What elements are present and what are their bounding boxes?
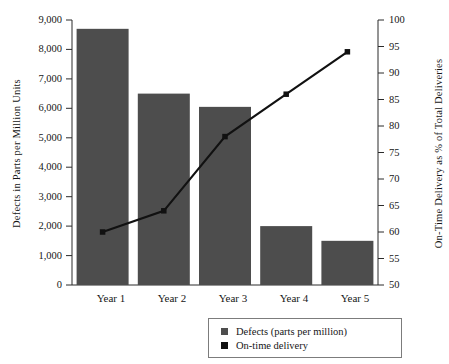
bar-year-3 xyxy=(199,107,251,285)
left-axis-ticks xyxy=(66,20,72,285)
left-tick-label-8000: 8,000 xyxy=(18,44,62,54)
right-tick-label-85: 85 xyxy=(389,95,400,105)
category-label-year-1: Year 1 xyxy=(81,292,141,304)
plot-area xyxy=(0,0,449,364)
category-label-year-2: Year 2 xyxy=(142,292,202,304)
right-tick-label-100: 100 xyxy=(389,15,405,25)
left-tick-label-7000: 7,000 xyxy=(18,74,62,84)
right-tick-label-90: 90 xyxy=(389,68,400,78)
left-tick-label-5000: 5,000 xyxy=(18,133,62,143)
legend-label-defects: Defects (parts per million) xyxy=(236,326,347,337)
right-tick-label-70: 70 xyxy=(389,174,400,184)
right-tick-label-80: 80 xyxy=(389,121,400,131)
chart-legend: Defects (parts per million) On-time deli… xyxy=(208,318,402,358)
legend-item-defects: Defects (parts per million) xyxy=(209,324,401,338)
left-tick-label-3000: 3,000 xyxy=(18,192,62,202)
left-tick-label-4000: 4,000 xyxy=(18,162,62,172)
left-tick-label-9000: 9,000 xyxy=(18,15,62,25)
combo-chart: Defects in Parts per Million Units On-Ti… xyxy=(0,0,449,364)
right-tick-label-55: 55 xyxy=(389,254,400,264)
y-axis-label-right: On-Time Delivery as % of Total Deliverie… xyxy=(433,49,444,259)
right-axis-ticks xyxy=(378,20,384,285)
bar-year-1 xyxy=(77,29,129,285)
marker-year-4 xyxy=(283,91,289,97)
left-tick-label-1000: 1,000 xyxy=(18,251,62,261)
legend-item-ontime-delivery: On-time delivery xyxy=(209,338,401,352)
legend-label-ontime-delivery: On-time delivery xyxy=(236,340,308,351)
right-tick-label-50: 50 xyxy=(389,280,400,290)
right-tick-label-60: 60 xyxy=(389,227,400,237)
bar-year-5 xyxy=(321,241,373,285)
marker-year-5 xyxy=(345,49,351,55)
bar-series xyxy=(77,29,374,285)
marker-year-2 xyxy=(161,208,167,214)
marker-year-3 xyxy=(222,134,228,140)
bar-year-4 xyxy=(260,226,312,285)
legend-swatch-defects-icon xyxy=(221,328,228,335)
left-tick-label-2000: 2,000 xyxy=(18,221,62,231)
category-label-year-3: Year 3 xyxy=(203,292,263,304)
category-label-year-4: Year 4 xyxy=(264,292,324,304)
left-tick-label-6000: 6,000 xyxy=(18,103,62,113)
right-tick-label-75: 75 xyxy=(389,148,400,158)
right-tick-label-65: 65 xyxy=(389,201,400,211)
category-label-year-5: Year 5 xyxy=(325,292,385,304)
marker-year-1 xyxy=(100,229,106,235)
left-tick-label-0: 0 xyxy=(18,280,62,290)
legend-swatch-ontime-delivery-icon xyxy=(221,342,228,349)
right-tick-label-95: 95 xyxy=(389,42,400,52)
